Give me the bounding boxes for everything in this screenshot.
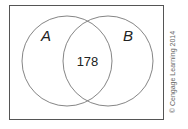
venn-diagram: A B 178 © Cengage Learning 2014 xyxy=(0,0,188,129)
set-a-circle xyxy=(22,16,112,106)
copyright-notice: © Cengage Learning 2014 xyxy=(169,31,177,113)
set-a-label: A xyxy=(40,27,51,44)
intersection-value: 178 xyxy=(77,54,99,69)
set-b-label: B xyxy=(123,27,133,44)
